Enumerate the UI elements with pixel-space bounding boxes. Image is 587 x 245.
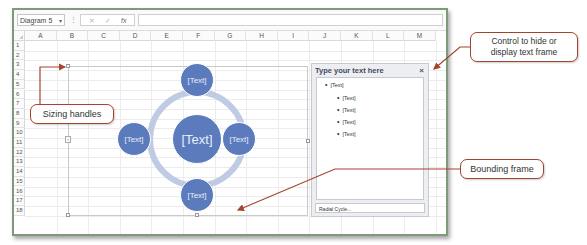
arrow-bounding-frame [238,169,460,210]
callout-arrows [0,0,587,245]
arrow-control-text-frame [434,47,470,69]
arrow-sizing-handles [40,67,65,105]
